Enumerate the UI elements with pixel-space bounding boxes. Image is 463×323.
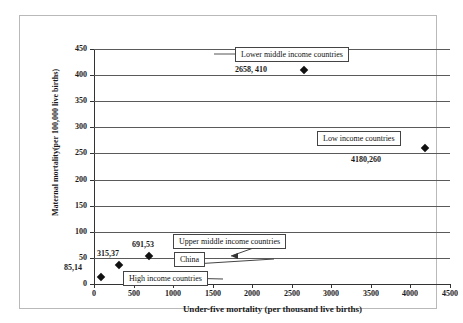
- y-tick-label-300: 300: [61, 123, 87, 131]
- y-axis-title: Maternal mortality(per 100,000 live birt…: [51, 48, 60, 238]
- y-tick-400: [90, 75, 94, 76]
- y-tick-label-400: 400: [61, 71, 87, 79]
- y-tick-250: [90, 153, 94, 154]
- x-tick-4500: [450, 284, 451, 288]
- y-tick-label-250: 250: [61, 149, 87, 157]
- y-tick-label-450: 450: [61, 45, 87, 53]
- x-tick-label-3500: 3500: [353, 290, 389, 298]
- x-tick-label-0: 0: [76, 290, 112, 298]
- y-tick-label-50: 50: [61, 254, 87, 262]
- y-tick-150: [90, 206, 94, 207]
- callout-upper-middle-income[interactable]: Upper middle income countries: [173, 234, 286, 249]
- y-tick-label-0: 0: [61, 280, 87, 288]
- x-tick-label-1000: 1000: [155, 290, 191, 298]
- point-label-lower-middle-income: 2658, 410: [235, 65, 267, 74]
- point-label-high-income: 85,14: [64, 263, 82, 272]
- x-tick-1500: [213, 284, 214, 288]
- y-tick-label-100: 100: [61, 228, 87, 236]
- y-tick-450: [90, 49, 94, 50]
- x-tick-label-4500: 4500: [432, 290, 463, 298]
- x-tick-label-1500: 1500: [195, 290, 231, 298]
- x-tick-0: [94, 284, 95, 288]
- figure-border: 450 400 350 300 250 200 150 100 50 0 0 5…: [19, 15, 437, 309]
- x-axis-title: Under-five mortality (per thousand live …: [94, 304, 451, 314]
- x-tick-3500: [371, 284, 372, 288]
- y-tick-300: [90, 127, 94, 128]
- callout-low-income[interactable]: Low income countries: [317, 131, 401, 146]
- y-tick-50: [90, 258, 94, 259]
- x-tick-2000: [252, 284, 253, 288]
- x-tick-label-500: 500: [116, 290, 152, 298]
- point-label-low-income: 4180,260: [351, 155, 381, 164]
- point-label-china: 315,37: [97, 249, 119, 258]
- x-tick-label-3000: 3000: [313, 290, 349, 298]
- callout-china[interactable]: China: [174, 252, 205, 267]
- x-tick-3000: [331, 284, 332, 288]
- x-tick-label-4000: 4000: [392, 290, 428, 298]
- x-tick-label-2500: 2500: [274, 290, 310, 298]
- y-tick-200: [90, 180, 94, 181]
- x-tick-4000: [410, 284, 411, 288]
- x-tick-label-2000: 2000: [234, 290, 270, 298]
- y-tick-100: [90, 232, 94, 233]
- x-tick-2500: [292, 284, 293, 288]
- y-tick-label-200: 200: [61, 176, 87, 184]
- callout-high-income[interactable]: High income countries: [123, 271, 208, 286]
- y-tick-350: [90, 101, 94, 102]
- y-tick-label-350: 350: [61, 97, 87, 105]
- y-tick-label-150: 150: [61, 202, 87, 210]
- callout-lower-middle-income[interactable]: Lower middle income countries: [235, 47, 349, 62]
- point-label-upper-middle-income: 691,53: [132, 240, 154, 249]
